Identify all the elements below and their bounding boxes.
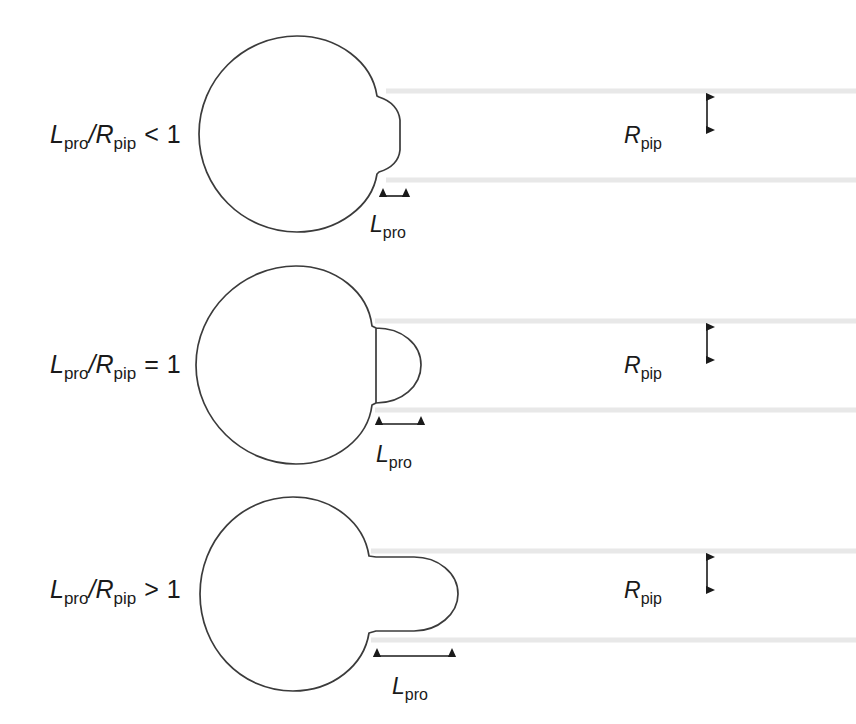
panel-1-radius-symbol: R: [624, 122, 641, 148]
panel-2-length-symbol: L: [376, 441, 389, 467]
panel-1-value: 1: [167, 120, 181, 148]
panel-less-than: Lpro/Rpip<1 Rpip Lpro: [50, 36, 856, 241]
panel-3-cell-outline: [200, 497, 458, 691]
panel-1-length-label: Lpro: [370, 211, 406, 241]
panel-1-label-R-sub: pip: [114, 134, 137, 153]
panel-2-length-label: Lpro: [376, 441, 412, 471]
panel-2-label-R-sub: pip: [114, 364, 137, 383]
panel-1-length-symbol: L: [370, 211, 383, 237]
panel-1-label-R: R: [95, 120, 113, 148]
panel-2-label-L: L: [50, 350, 64, 378]
aspiration-figure: Lpro/Rpip<1 Rpip Lpro Lpro/Rpip=1: [0, 0, 856, 724]
panel-2-condition-label: Lpro/Rpip=1: [50, 350, 181, 383]
panel-3-value: 1: [167, 575, 181, 603]
panel-2-length-sub: pro: [389, 454, 412, 471]
panel-2-value: 1: [167, 350, 181, 378]
panel-1-operator: <: [144, 120, 159, 148]
panel-equal: Lpro/Rpip=1 Rpip Lpro: [50, 266, 856, 471]
panel-2-label-L-sub: pro: [64, 364, 89, 383]
panel-3-operator: >: [144, 575, 159, 603]
panel-2-operator: =: [144, 350, 159, 378]
panel-3-condition-label: Lpro/Rpip>1: [50, 575, 181, 608]
panel-2-radius-symbol: R: [624, 352, 641, 378]
panel-2-label-R: R: [95, 350, 113, 378]
panel-3-label-L: L: [50, 575, 64, 603]
panel-3-length-label: Lpro: [392, 673, 428, 703]
panel-3-radius-label: Rpip: [624, 577, 662, 607]
panel-3-label-R-sub: pip: [114, 589, 137, 608]
panel-1-cell-outline: [199, 36, 400, 232]
panel-greater-than: Lpro/Rpip>1 Rpip Lpro: [50, 497, 856, 703]
panel-1-length-sub: pro: [383, 224, 406, 241]
panel-3-radius-sub: pip: [641, 590, 662, 607]
panel-3-length-sub: pro: [405, 686, 428, 703]
figure-canvas: Lpro/Rpip<1 Rpip Lpro Lpro/Rpip=1: [0, 0, 856, 724]
panel-3-label-R: R: [95, 575, 113, 603]
panel-1-label-L-sub: pro: [64, 134, 89, 153]
panel-2-radius-sub: pip: [641, 365, 662, 382]
panel-3-length-symbol: L: [392, 673, 405, 699]
panel-2-cell-outline: [196, 266, 421, 464]
panel-1-radius-label: Rpip: [624, 122, 662, 152]
panel-1-label-L: L: [50, 120, 64, 148]
panel-1-radius-sub: pip: [641, 135, 662, 152]
panel-3-label-L-sub: pro: [64, 589, 89, 608]
panel-3-radius-symbol: R: [624, 577, 641, 603]
panel-1-condition-label: Lpro/Rpip<1: [50, 120, 181, 153]
panel-2-radius-label: Rpip: [624, 352, 662, 382]
